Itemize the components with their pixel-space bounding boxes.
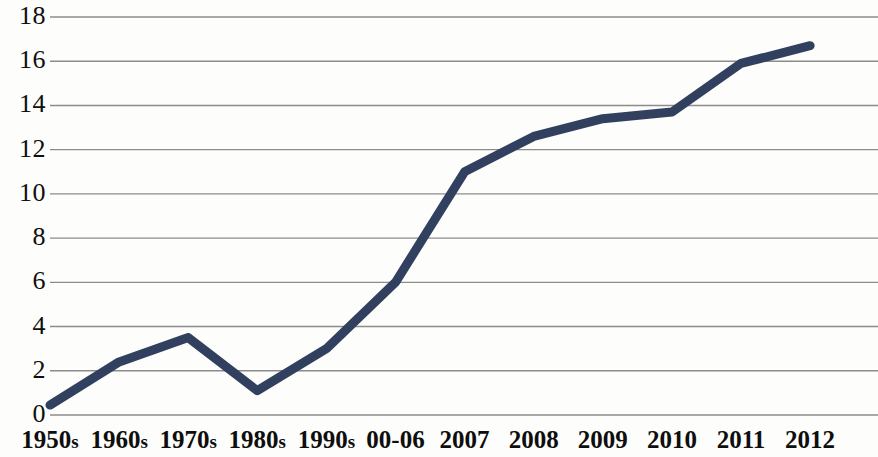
- x-tick-label: 2012: [785, 425, 835, 455]
- y-tick-label: 10: [2, 180, 46, 206]
- chart-canvas: [0, 0, 878, 457]
- data-series-line: [50, 46, 810, 405]
- x-tick-label: 2011: [717, 425, 766, 455]
- data-line-group: [50, 46, 810, 405]
- y-tick-label: 0: [2, 401, 46, 427]
- x-tick-label: 1950s: [21, 425, 78, 457]
- y-tick-label: 14: [2, 91, 46, 117]
- y-tick-label: 4: [2, 313, 46, 339]
- y-tick-label: 2: [2, 357, 46, 383]
- x-tick-label: 2008: [509, 425, 559, 455]
- x-tick-label: 2007: [440, 425, 490, 455]
- x-tick-label: 2010: [647, 425, 697, 455]
- x-axis: 1950s1960s1970s1980s1990s00-062007200820…: [0, 425, 878, 457]
- y-tick-label: 6: [2, 268, 46, 294]
- line-chart: 181614121086420 1950s1960s1970s1980s1990…: [0, 0, 878, 457]
- gridlines: [50, 17, 878, 415]
- x-tick-label: 00-06: [366, 425, 424, 455]
- x-tick-label: 1960s: [90, 425, 147, 457]
- y-axis: 181614121086420: [0, 0, 46, 457]
- x-tick-label: 1990s: [298, 425, 355, 457]
- y-tick-label: 16: [2, 47, 46, 73]
- plot-area: [0, 0, 878, 457]
- y-tick-label: 8: [2, 224, 46, 250]
- x-tick-label: 1980s: [229, 425, 286, 457]
- x-tick-label: 1970s: [159, 425, 216, 457]
- y-tick-label: 18: [2, 3, 46, 29]
- y-tick-label: 12: [2, 136, 46, 162]
- x-tick-label: 2009: [578, 425, 628, 455]
